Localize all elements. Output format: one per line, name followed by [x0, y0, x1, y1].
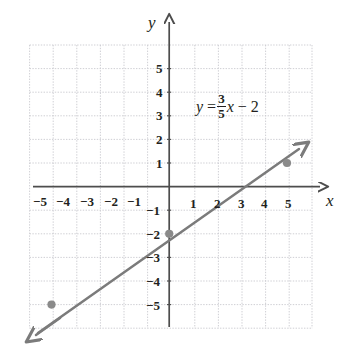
y-tick-label--1: −1 — [146, 204, 160, 217]
y-tick-label-1: 1 — [156, 157, 163, 170]
plot-point-neg5-neg5 — [47, 301, 55, 309]
fraction-numerator: 3 — [217, 92, 226, 106]
graph-figure: y x −5 −4 −3 −2 −1 1 2 3 4 5 5 4 3 2 1 −… — [0, 0, 351, 350]
fraction-denominator: 5 — [217, 106, 226, 121]
y-tick-label--2: −2 — [146, 228, 160, 241]
x-tick-label-4: 4 — [261, 197, 268, 210]
plot-point-0-neg2 — [165, 230, 173, 238]
x-tick-label--3: −3 — [80, 195, 94, 208]
x-tick-label-5: 5 — [285, 197, 292, 210]
coordinate-plane — [0, 0, 351, 350]
x-tick-label-1: 1 — [190, 197, 197, 210]
y-tick-label--3: −3 — [146, 251, 160, 264]
x-tick-label-3: 3 — [238, 197, 245, 210]
y-axis-label: y — [148, 14, 156, 31]
equation-lhs: y — [196, 98, 203, 115]
y-tick-label-3: 3 — [156, 109, 163, 122]
y-tick-label-5: 5 — [156, 62, 163, 75]
x-tick-label-2: 2 — [214, 197, 221, 210]
y-tick-label-4: 4 — [156, 86, 163, 99]
equation-variable: x — [227, 98, 234, 115]
x-axis-label: x — [326, 192, 334, 209]
y-tick-label--5: −5 — [146, 299, 160, 312]
plotted-line-left-arrow — [36, 318, 60, 335]
equation-annotation: y =35x − 2 — [196, 92, 259, 120]
equation-relation: = — [207, 98, 216, 115]
equation-sign: − — [238, 98, 247, 115]
x-tick-label--2: −2 — [104, 195, 118, 208]
x-tick-label--4: −4 — [56, 195, 70, 208]
x-tick-label--1: −1 — [127, 195, 141, 208]
plot-point-5-1 — [283, 159, 291, 167]
equation-constant: 2 — [251, 98, 259, 115]
x-tick-label--5: −5 — [33, 195, 47, 208]
y-tick-label-2: 2 — [156, 133, 163, 146]
y-tick-label--4: −4 — [146, 275, 160, 288]
equation-fraction: 35 — [217, 92, 226, 120]
